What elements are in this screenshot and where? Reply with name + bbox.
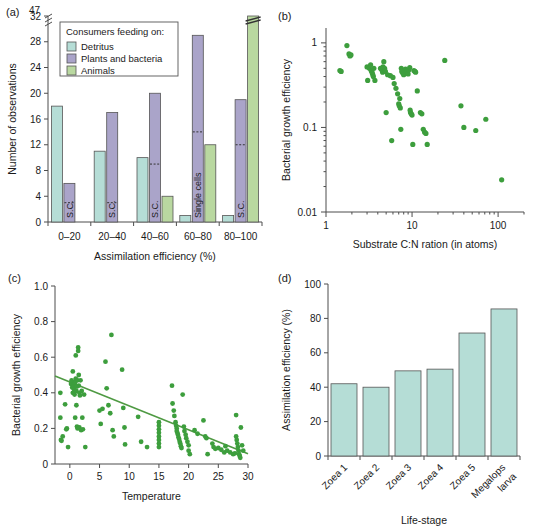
y-tick-label: 0.6 [34,352,48,363]
data-point [483,117,488,122]
data-point [110,428,115,433]
bar-animals-4 [248,16,259,222]
data-point [58,390,63,395]
data-point [73,415,78,420]
data-point [109,333,114,338]
y-tick-label: 0.4 [34,387,48,398]
bar-animals-3 [205,145,216,222]
data-point [461,125,466,130]
data-point [348,52,353,57]
x-tick-label: Zoea 4 [416,461,446,491]
y-tick-label: 0.8 [34,316,48,327]
panel-d-x-axis-label: Life-stage [401,514,447,526]
data-point [104,386,109,391]
data-point [425,142,430,147]
y-tick-label: 0.1 [303,122,317,133]
data-point [195,431,200,436]
y-tick-label: 0 [315,451,321,462]
x-tick-label: 1 [323,220,329,231]
data-point [223,444,228,449]
panel-b-y-axis-label: Bacterial growth efficiency [280,58,292,181]
panel-b-label: (b) [278,10,291,22]
data-point [201,418,206,423]
panel-a-bar-chart: (a)04812162024283247S.C.0–20S.C.20–40S.C… [0,0,270,265]
panel-d-y-axis-label: Assimilation efficiency (%) [280,309,292,431]
y-tick-label: 16 [30,114,42,125]
regression-line [55,376,248,454]
panel-a-label: (a) [6,6,19,18]
x-tick-label: Zoea 3 [384,461,414,491]
data-point [384,110,389,115]
data-point [499,177,504,182]
y-tick-label: 0.2 [34,423,48,434]
x-tick-label: 15 [153,471,165,482]
x-tick-label: 0 [67,471,73,482]
data-point [120,367,125,372]
data-point [106,403,111,408]
single-cell-label: S.C. [236,200,246,218]
panel-b-scatter-chart: (b)0.010.11110100Substrate C:N ration (i… [268,0,537,265]
data-point [60,434,65,439]
y-tick-label: 80 [310,313,322,324]
data-point [145,445,150,450]
panel-c-x-axis-label: Temperature [122,490,181,502]
x-tick-label: 20 [183,471,195,482]
panel-a-y-axis-label: Number of observations [6,63,18,174]
data-point [170,383,175,388]
x-tick-label: 60–80 [184,231,212,242]
data-point [365,78,370,83]
bar-detritus-2 [137,158,148,222]
data-point [111,434,116,439]
data-point [413,70,418,75]
y-tick-label: 12 [30,139,42,150]
panel-c-y-axis-label: Bacterial growth efficiency [10,313,22,436]
single-cell-label: S.C. [150,200,160,218]
bar-2 [395,371,421,456]
data-point [63,402,68,407]
data-point [392,81,397,86]
x-tick-label: 30 [242,471,254,482]
y-tick-label: 20 [310,416,322,427]
data-point [241,448,246,453]
data-point [240,443,245,448]
data-point [234,413,239,418]
bar-5 [491,309,517,456]
data-point [70,369,75,374]
data-point [58,415,63,420]
data-point [76,383,81,388]
data-point [76,373,81,378]
y-tick-label: 1 [311,37,317,48]
data-point [205,452,210,457]
panel-d-label: (d) [278,272,291,284]
data-point [398,127,403,132]
panel-c-svg: (c)00.20.40.60.81.0051015202530Temperatu… [0,264,270,529]
y-tick-label: 40 [310,382,322,393]
y-tick-label: 60 [310,347,322,358]
x-tick-label: 100 [490,220,507,231]
data-point [339,69,344,74]
data-point [181,424,186,429]
data-point [123,442,128,447]
data-point [170,401,175,406]
y-tick-label: 8 [35,165,41,176]
x-tick-label: 10 [406,220,418,231]
y-tick-label: 47 [29,5,41,16]
data-point [59,438,64,443]
legend-swatch-2 [67,66,76,75]
y-tick-label: 20 [30,88,42,99]
panel-c-label: (c) [8,272,21,284]
data-point [73,353,78,358]
panel-b-x-axis-label: Substrate C:N ration (in atoms) [353,238,498,250]
data-point [78,393,83,398]
data-point [389,138,394,143]
x-tick-label: 40–60 [141,231,169,242]
data-point [381,59,386,64]
data-point [409,112,414,117]
legend-label-1: Plants and bacteria [81,53,163,64]
data-point [419,111,424,116]
data-point [172,414,177,419]
data-point [80,415,85,420]
data-point [98,422,103,427]
x-tick-label: 10 [124,471,136,482]
legend-swatch-0 [67,42,76,51]
